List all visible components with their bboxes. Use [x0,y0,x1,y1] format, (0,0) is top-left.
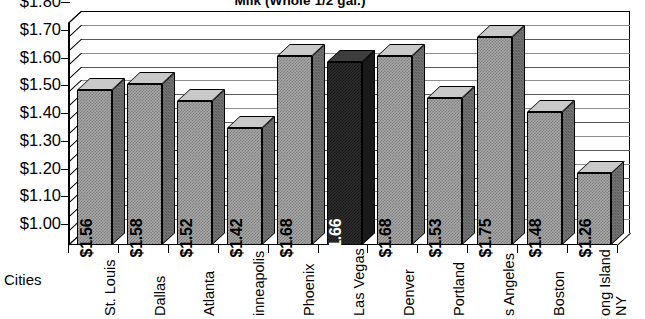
bar-column[interactable]: $1.53 [427,86,475,245]
x-axis-tick-mark [318,245,319,253]
bar-front-face: $1.68 [277,56,312,245]
bar-column[interactable]: $1.58 [127,72,175,245]
bar-column[interactable]: $1.68 [377,44,425,245]
bar-side-face [512,25,525,245]
x-axis-category-label: Boston [552,253,567,316]
bar-front-face: $1.68 [377,56,412,245]
bar-column[interactable]: $1.52 [177,89,225,245]
bar-column[interactable]: $1.68 [277,44,325,245]
bar-side-face [212,89,225,245]
x-axis-category-label: ong IslandNY [598,253,613,316]
plot-top-left-depth-line [68,11,82,24]
x-axis-category-label: St. Louis [103,253,118,316]
x-axis-labels: St. LouisDallasAtlantainneapolisPhoenixL… [68,256,630,319]
y-axis-tick-label: $1.70 [20,21,61,37]
bar-value-label: $1.42 [228,218,246,257]
gridline-major [81,39,630,40]
x-axis-tick-mark [517,245,518,253]
bar-column[interactable]: $1.56 [77,78,125,245]
y-axis-tick-label: $1.10 [20,187,61,203]
x-axis-tick-mark [168,245,169,253]
y-axis-tick-label: $1.40 [20,104,61,120]
bar-column[interactable]: $1.48 [527,100,575,245]
y-axis-tick-mark [61,2,70,3]
bar-value-label: $1.56 [78,218,96,257]
bar-side-face [462,86,475,245]
bar-front-face: $1.53 [427,98,462,245]
x-axis-tick-mark [218,245,219,253]
bar-value-label: $1.53 [427,218,445,257]
x-axis-tick-mark [417,245,418,253]
bar-front-face: $1.42 [227,128,262,245]
y-axis: $1.80$1.70$1.60$1.50$1.40$1.30$1.20$1.10… [0,0,66,248]
x-axis-category-label: Las Vegas [352,253,367,316]
bar-side-face [611,161,624,245]
y-axis-tick-label: $1.20 [20,160,61,176]
bar-value-label: $1.52 [178,218,196,257]
x-axis-tick-mark [68,245,69,253]
bar-front-face: $1.56 [77,90,112,245]
bar-front-face: $1.26 [577,173,612,245]
bar-column[interactable]: $1.66 [327,50,375,245]
bar-front-face: $1.48 [527,112,562,245]
bar-column[interactable]: $1.26 [577,161,625,245]
bar-front-face: $1.52 [177,101,212,245]
bar-column[interactable]: $1.42 [227,116,275,245]
x-axis-category-label: s Angeles [502,253,517,316]
bar-column[interactable]: $1.75 [477,25,525,245]
x-axis-category-label: Phoenix [302,253,317,316]
y-axis-tick-label: $1.60 [20,49,61,65]
x-axis-tick-mark [467,245,468,253]
bar-side-face [112,78,125,245]
bar-value-label: $1.26 [577,218,595,257]
bar-side-face [412,44,425,245]
x-axis-tick-mark [617,245,618,253]
bar-side-face [262,116,275,245]
bar-chart: Milk (Whole 1/2 gal.) $1.80$1.70$1.60$1.… [0,0,645,319]
bar-front-face: $1.75 [477,37,512,245]
x-axis-tick-mark [118,245,119,253]
bar-value-label: $1.48 [527,218,545,257]
y-axis-tick-label: $1.00 [20,215,61,231]
plot-area: $1.56$1.58$1.52$1.42$1.68$1.66$1.68$1.53… [68,11,630,245]
x-axis-title: Cities [4,271,42,288]
bar-side-face [162,72,175,245]
x-axis-category-label: Portland [452,253,467,316]
x-axis-category-label-line2: NY [614,296,629,316]
x-axis-category-label: Atlanta [202,253,217,316]
x-axis-category-label: Dallas [153,253,168,316]
x-axis-category-label: Denver [402,253,417,316]
bar-value-label: $1.58 [128,218,146,257]
bar-side-face [312,44,325,245]
chart-title: Milk (Whole 1/2 gal.) [0,0,600,8]
y-axis-tick-label: $1.50 [20,76,61,92]
x-axis-tick-mark [567,245,568,253]
gridline-minor [81,25,630,26]
y-axis-tick-label: $1.30 [20,132,61,148]
bar-side-face [562,100,575,245]
x-axis-tick-mark [367,245,368,253]
bar-value-label: $1.75 [477,218,495,257]
bar-front-face: $1.66 [327,62,362,245]
bar-value-label: $1.68 [377,218,395,257]
bar-value-label: $1.66 [327,218,345,257]
bar-value-label: $1.68 [278,218,296,257]
x-axis-tick-mark [268,245,269,253]
x-axis-category-label: inneapolis [252,253,267,316]
bar-side-face [362,50,375,245]
y-axis-tick-label: $1.80 [20,0,61,9]
bar-front-face: $1.58 [127,84,162,245]
